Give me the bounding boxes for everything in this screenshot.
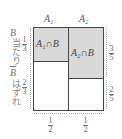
brace-left-top bbox=[30, 28, 31, 60]
divider-left-horizontal bbox=[33, 61, 68, 62]
brace-bottom-left bbox=[34, 113, 67, 114]
brace-right-bottom bbox=[106, 80, 107, 109]
fraction-bottom-right: 12 bbox=[83, 117, 88, 134]
border-right bbox=[103, 27, 104, 111]
brace-right-top bbox=[106, 28, 107, 77]
row-label-b-bar: B bbox=[10, 67, 16, 78]
cell-label-a2-b: A₂∩B bbox=[71, 47, 94, 58]
cell-label-a1-b: A₁∩B bbox=[36, 38, 59, 49]
column-label-a2: A₂ bbox=[79, 13, 89, 24]
column-label-a1: A₁ bbox=[44, 13, 54, 24]
border-left bbox=[33, 27, 34, 111]
fraction-bottom-left: 12 bbox=[48, 117, 53, 134]
divider-vertical bbox=[68, 27, 69, 111]
fraction-2-5: 25 bbox=[109, 86, 114, 103]
brace-bottom-right bbox=[69, 113, 102, 114]
divider-right-horizontal bbox=[68, 78, 103, 79]
fraction-3-5: 35 bbox=[109, 45, 114, 62]
row-label-b: B bbox=[10, 27, 16, 38]
fraction-2-3: 23 bbox=[22, 79, 27, 96]
brace-left-bottom bbox=[30, 63, 31, 109]
fraction-1-3: 13 bbox=[22, 36, 27, 53]
